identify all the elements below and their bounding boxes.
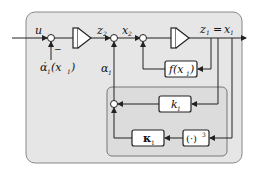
svg-text:2: 2 — [102, 30, 107, 37]
svg-text:=: = — [213, 23, 222, 36]
label-z1-equals-x1: z 1 = x 1 — [199, 23, 234, 36]
summing-junction-1 — [48, 35, 55, 42]
svg-text:κ: κ — [143, 132, 151, 145]
block-diagram: u − α̇ 1 (x 1 ) z 2 x 2 α 1 z 1 = x 1 f(… — [0, 0, 258, 175]
svg-text:1: 1 — [151, 139, 155, 146]
svg-text:(·): (·) — [186, 133, 197, 144]
svg-text:2: 2 — [127, 30, 132, 37]
svg-text:z: z — [199, 23, 206, 36]
svg-text:z: z — [96, 24, 103, 37]
summing-junction-2 — [111, 35, 118, 42]
label-u: u — [35, 24, 42, 37]
svg-text:3: 3 — [202, 131, 206, 138]
summing-junction-3 — [140, 35, 147, 42]
minus-sign-1: − — [54, 44, 62, 54]
svg-text:1: 1 — [108, 69, 112, 76]
svg-text:(x: (x — [51, 61, 62, 74]
svg-text:): ) — [189, 63, 194, 76]
svg-text:1: 1 — [206, 29, 210, 36]
svg-text:f(x: f(x — [168, 63, 184, 76]
svg-text:1: 1 — [177, 105, 181, 112]
f-block-label: f(x 1 ) — [168, 63, 194, 77]
svg-text:1: 1 — [230, 29, 234, 36]
svg-text:): ) — [70, 61, 75, 74]
summing-junction-4 — [111, 101, 118, 108]
